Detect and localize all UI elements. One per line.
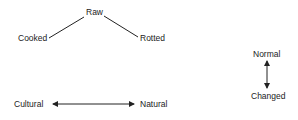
label-rotted: Rotted xyxy=(140,33,165,43)
label-raw: Raw xyxy=(86,7,103,17)
label-changed: Changed xyxy=(251,91,286,101)
label-cooked: Cooked xyxy=(18,33,47,43)
label-normal: Normal xyxy=(253,49,280,59)
label-natural: Natural xyxy=(140,99,167,109)
line-cooked-raw xyxy=(49,17,84,38)
label-cultural: Cultural xyxy=(14,99,43,109)
line-raw-rotted xyxy=(104,16,138,37)
